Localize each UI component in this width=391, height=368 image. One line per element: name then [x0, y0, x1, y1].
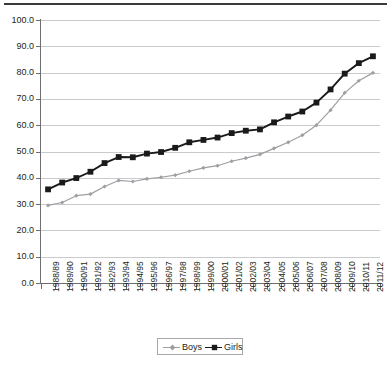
data-point-square [88, 169, 94, 175]
data-point-square [158, 149, 164, 155]
data-point-square [144, 151, 150, 157]
data-point-diamond [60, 200, 64, 204]
chart-figure: 100.090.080.070.060.050.040.030.020.010.… [0, 0, 391, 368]
data-point-square [299, 109, 305, 115]
chart-legend: Boys Girls [157, 338, 243, 355]
legend-label-girls: Girls [224, 342, 243, 353]
data-point-diamond [159, 175, 163, 179]
diamond-marker-icon [169, 344, 176, 351]
data-point-square [314, 100, 320, 106]
data-point-diamond [244, 156, 248, 160]
legend-label-boys: Boys [182, 342, 202, 353]
data-point-square [215, 135, 221, 141]
data-point-square [271, 119, 277, 125]
data-point-square [285, 114, 291, 120]
series-girls [45, 53, 376, 192]
data-point-square [172, 145, 178, 151]
data-point-square [201, 137, 207, 143]
data-point-square [370, 53, 376, 59]
data-point-square [73, 175, 79, 181]
data-point-square [186, 139, 192, 145]
data-point-diamond [258, 152, 262, 156]
data-point-square [102, 160, 108, 166]
data-point-square [229, 130, 235, 136]
data-point-diamond [230, 159, 234, 163]
square-marker-icon [211, 344, 218, 351]
data-point-square [45, 186, 51, 192]
data-point-diamond [173, 173, 177, 177]
data-point-diamond [187, 169, 191, 173]
data-point-diamond [272, 146, 276, 150]
data-point-square [243, 128, 249, 134]
data-point-diamond [131, 179, 135, 183]
data-point-diamond [215, 164, 219, 168]
data-point-square [356, 60, 362, 66]
data-point-square [130, 154, 136, 160]
data-point-square [257, 127, 263, 133]
data-point-diamond [46, 203, 50, 207]
data-point-diamond [201, 166, 205, 170]
data-point-square [342, 71, 348, 77]
data-point-square [59, 180, 65, 186]
data-point-square [328, 87, 334, 93]
data-point-diamond [74, 194, 78, 198]
data-point-diamond [117, 178, 121, 182]
data-point-diamond [286, 140, 290, 144]
series-layer [0, 0, 391, 368]
data-point-diamond [145, 177, 149, 181]
series-line [48, 56, 373, 189]
data-point-square [116, 154, 122, 160]
